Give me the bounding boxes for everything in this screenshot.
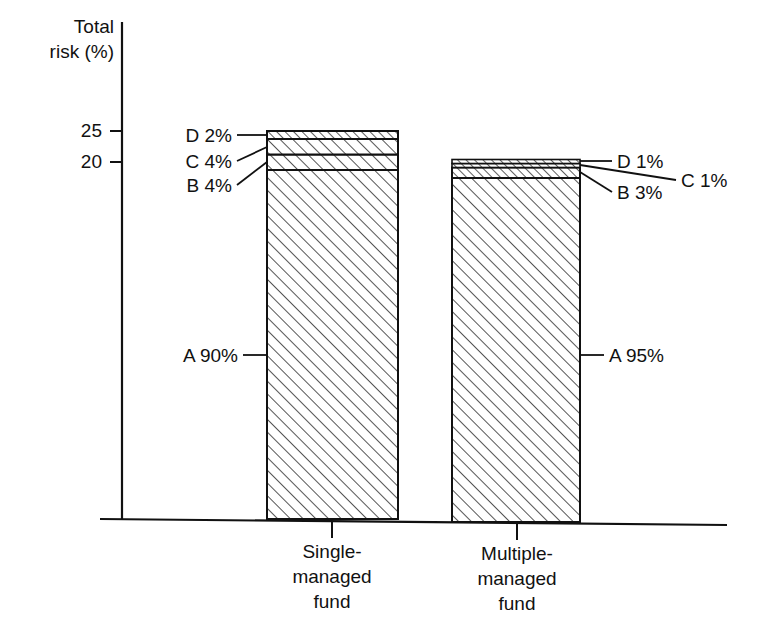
bar-single-label-c: C 4% — [120, 152, 232, 171]
bar-multiple-label-d: D 1% — [617, 152, 663, 171]
leader-line-multiple-b — [580, 172, 612, 192]
bar-multiple-segment-d — [452, 160, 580, 164]
category-label-single-line1: Single- — [242, 540, 422, 564]
bar-multiple-label-c: C 1% — [681, 171, 727, 190]
bar-single-segment-b — [267, 155, 398, 171]
category-label-single-line2: managed — [242, 565, 422, 589]
chart-canvas: Total risk (%) 25 20 D 2% C 4% B 4% A 90… — [0, 0, 760, 640]
y-tick-label-25: 25 — [40, 121, 102, 140]
y-tick-label-20: 20 — [40, 152, 102, 171]
category-label-multiple-line1: Multiple- — [427, 542, 607, 566]
bar-multiple-label-a: A 95% — [609, 346, 664, 365]
bar-single-segment-a — [267, 170, 398, 519]
bar-single-label-a: A 90% — [120, 346, 238, 365]
bar-single-label-d: D 2% — [120, 126, 232, 145]
bar-single-segment-c — [267, 139, 398, 155]
y-axis-title-line2: risk (%) — [8, 39, 114, 64]
leader-line-single-c — [237, 147, 267, 161]
y-axis-title-line1: Total — [8, 14, 114, 39]
category-label-multiple-line3: fund — [427, 592, 607, 616]
bar-multiple-managed — [452, 160, 580, 523]
x-axis-line — [100, 519, 727, 525]
category-label-single-line3: fund — [242, 590, 422, 614]
bar-multiple-label-b: B 3% — [617, 183, 662, 202]
bar-single-label-b: B 4% — [120, 176, 232, 195]
category-label-multiple-line2: managed — [427, 567, 607, 591]
bar-single-segment-d — [267, 131, 398, 139]
bar-single-managed — [267, 131, 398, 519]
leader-line-single-b — [237, 162, 267, 185]
bar-multiple-segment-a — [452, 178, 580, 522]
bar-multiple-segment-b — [452, 168, 580, 179]
